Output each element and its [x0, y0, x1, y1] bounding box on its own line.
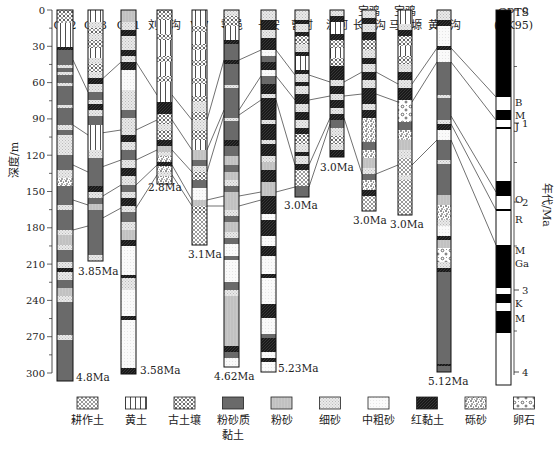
layer-redclay: [121, 62, 136, 70]
layer-redclay: [330, 150, 344, 157]
layer-fine_sand: [362, 50, 376, 58]
layer-loess: [330, 48, 344, 58]
layer-silty_clay: [224, 165, 239, 172]
layer-silt: [57, 288, 73, 296]
layer-gravel_sand: [362, 180, 376, 190]
layer-paleosol: [157, 56, 172, 62]
layer-fine_sand: [398, 64, 412, 72]
layer-fine_sand: [261, 156, 276, 162]
layer-fine_sand: [88, 58, 103, 64]
layer-silty_clay: [224, 44, 239, 60]
layer-silty_clay: [261, 334, 276, 338]
layer-paleosol: [88, 28, 103, 34]
layer-cultivated: [362, 196, 376, 211]
layer-fine_sand: [121, 36, 136, 50]
legend-label: 粉砂质: [217, 414, 250, 427]
layer-fine_sand: [57, 205, 73, 210]
layer-fine_sand: [261, 30, 276, 38]
layer-fine_sand: [121, 118, 136, 135]
layer-silty_clay: [295, 186, 309, 197]
layer-fine_sand: [192, 102, 207, 112]
correlation-line: [451, 116, 496, 192]
layer-cultivated: [192, 214, 207, 245]
layer-silt: [57, 235, 73, 245]
layer-paleosol: [330, 58, 344, 66]
layer-silt: [437, 240, 451, 248]
chron-label: B: [515, 97, 522, 108]
layer-silty_clay: [121, 150, 136, 160]
depth-tick-label: 180: [26, 222, 45, 233]
layer-fine_sand: [295, 44, 309, 52]
layer-redclay: [398, 72, 412, 80]
layer-silty_clay: [88, 210, 103, 255]
polarity-band: [496, 303, 511, 311]
column-basal-age: 2.8Ma: [148, 181, 182, 193]
layer-silt: [224, 192, 239, 210]
layer-redclay: [261, 62, 276, 70]
legend-label: 粉砂: [271, 414, 293, 427]
column-沈河: 沈河3.0Ma: [320, 10, 354, 173]
layer-redclay: [437, 236, 451, 240]
layer-fine_sand: [398, 24, 412, 30]
layer-coarse_sand: [224, 260, 239, 282]
layer-loess: [192, 66, 207, 78]
depth-tick-label: 60: [32, 77, 45, 88]
correlation-line: [276, 50, 295, 75]
layer-fine_sand: [88, 34, 103, 40]
polarity-band: [496, 10, 511, 97]
layer-silt: [261, 162, 276, 170]
depth-tick-label: 300: [26, 368, 45, 379]
layer-fine_sand: [224, 232, 239, 238]
layer-fine_sand: [330, 144, 344, 150]
layer-redclay: [121, 316, 136, 320]
polarity-band: [496, 294, 511, 303]
layer-fine_sand: [88, 22, 103, 28]
layer-silty_clay: [57, 75, 73, 83]
layer-silty_clay: [88, 162, 103, 186]
layer-redclay: [57, 268, 73, 272]
layer-fine_sand: [295, 144, 309, 152]
layer-redclay: [261, 124, 276, 140]
layer-silty_clay: [57, 108, 73, 125]
layer-coarse_sand: [261, 214, 276, 220]
layer-paleosol: [295, 134, 309, 144]
legend-swatch: [77, 397, 98, 409]
layer-fine_sand: [362, 10, 376, 18]
layer-fine_sand: [224, 210, 239, 216]
layer-coarse_sand: [224, 358, 239, 367]
layer-fine_sand: [437, 120, 451, 124]
layer-silty_clay: [57, 50, 73, 65]
layer-silt: [261, 182, 276, 196]
column-basal-age: 3.0Ma: [390, 218, 424, 230]
layer-silty_clay: [57, 86, 73, 105]
correlation-line: [239, 192, 261, 196]
legend-item-gravel_sand: 砾砂: [465, 397, 487, 427]
legend-label: 中粗砂: [362, 414, 395, 427]
column-basal-age: 3.0Ma: [320, 161, 354, 173]
layer-silty_clay: [398, 122, 412, 130]
layer-paleosol: [88, 64, 103, 72]
layer-fine_sand: [362, 64, 376, 72]
chron-label: Ga: [515, 258, 529, 269]
layer-redclay: [261, 170, 276, 182]
layer-redclay: [261, 246, 276, 256]
chron-label: M: [515, 110, 525, 121]
layer-fine_sand: [295, 86, 309, 94]
layer-loess: [192, 50, 207, 60]
correlation-line: [276, 100, 295, 165]
legend-label: 耕作土: [71, 413, 104, 427]
correlation-line: [172, 150, 192, 172]
correlation-line: [309, 75, 330, 82]
age-tick-label: 0: [522, 5, 528, 16]
layer-redclay: [121, 275, 136, 278]
layer-fine_sand: [224, 10, 239, 16]
layer-silt: [224, 296, 239, 346]
layer-silty_clay: [121, 110, 136, 118]
layer-coarse_sand: [437, 26, 451, 46]
layer-paleosol: [295, 36, 309, 44]
correlation-line: [239, 76, 261, 110]
column-宝鸡马家塬: 宝鸡马家塬3.0Ma: [389, 4, 424, 230]
layer-coarse_sand: [121, 70, 136, 90]
layer-coarse_sand: [437, 130, 451, 140]
correlation-line: [309, 124, 330, 187]
